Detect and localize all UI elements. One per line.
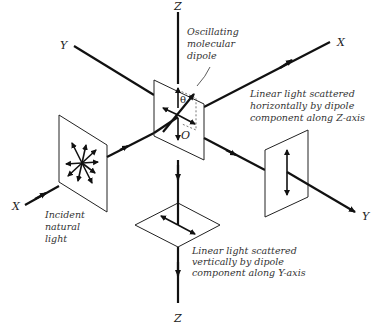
svg-text:Linear light scattered: Linear light scattered — [249, 88, 355, 99]
svg-text:natural: natural — [45, 221, 80, 232]
dipole-pointer — [197, 67, 210, 86]
svg-text:molecular: molecular — [187, 38, 237, 49]
y-axis-mid-arrow-icon — [226, 150, 236, 155]
svg-text:component along Z-axis: component along Z-axis — [250, 112, 365, 123]
z-axis-label-top: Z — [173, 0, 182, 13]
y-axis-label-upper: Y — [60, 39, 69, 52]
vertical-scatter-caption: Linear light scattered vertically by dip… — [191, 245, 306, 278]
incident-caption: Incident natural light — [44, 209, 85, 244]
incident-arrow-icon — [35, 193, 46, 199]
svg-text:component along Y-axis: component along Y-axis — [192, 267, 306, 278]
x-axis-label-lower: X — [11, 200, 21, 213]
dipole-plane — [154, 80, 204, 160]
origin-label: O — [181, 129, 190, 142]
y-axis-label-lower: Y — [362, 210, 371, 223]
x-axis-mid — [107, 133, 154, 157]
x-axis-label-upper: X — [336, 36, 346, 49]
svg-text:dipole: dipole — [187, 50, 217, 61]
dipole-caption: Oscillating molecular dipole — [187, 26, 239, 61]
svg-text:Incident: Incident — [44, 209, 85, 220]
svg-text:horizontally by dipole: horizontally by dipole — [250, 100, 355, 111]
svg-text:Oscillating: Oscillating — [187, 26, 239, 37]
svg-text:light: light — [45, 233, 67, 244]
dipole-scattering-diagram: Z Z X X Y Y θ O Oscillating molecular di… — [0, 0, 377, 325]
y-axis-upper-left — [74, 46, 154, 95]
svg-text:Linear light scattered: Linear light scattered — [191, 245, 297, 256]
z-axis-label-bottom: Z — [173, 312, 182, 325]
theta-symbol: θ — [180, 94, 186, 105]
svg-text:vertically by dipole: vertically by dipole — [192, 256, 284, 267]
x-axis-arrow-icon — [280, 60, 292, 68]
horizontal-scatter-caption: Linear light scattered horizontally by d… — [249, 88, 365, 123]
